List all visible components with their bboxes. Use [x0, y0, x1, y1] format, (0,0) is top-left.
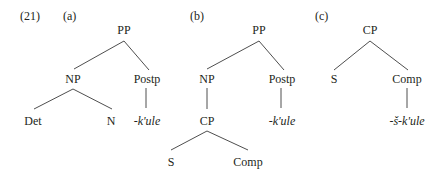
tree-edges — [0, 0, 448, 177]
node-s: S — [331, 72, 338, 86]
node-cp: CP — [363, 23, 378, 37]
node-np: NP — [199, 72, 214, 86]
node-n: N — [107, 114, 116, 128]
edge-np-n — [73, 89, 112, 109]
edge-pp-np — [207, 41, 259, 69]
morpheme-kule: -k'ule — [269, 114, 296, 128]
morpheme-s-kule: -š-k'ule — [389, 114, 424, 128]
tree-a-label: (a) — [63, 9, 76, 23]
node-pp: PP — [252, 23, 265, 37]
tree-c-label: (c) — [315, 9, 328, 23]
edge-cp-s — [171, 131, 207, 150]
node-comp: Comp — [392, 72, 421, 86]
edge-pp-postp — [124, 41, 149, 70]
node-np: NP — [65, 72, 80, 86]
node-postp: Postp — [269, 72, 296, 86]
node-cp: CP — [200, 114, 215, 128]
edge-np-det — [34, 89, 73, 109]
edge-cp-comp — [207, 131, 248, 150]
edge-cp-s — [334, 41, 370, 70]
edge-pp-postp — [259, 41, 284, 70]
example-number: (21) — [20, 9, 40, 23]
node-det: Det — [24, 114, 41, 128]
node-postp: Postp — [134, 72, 161, 86]
node-pp: PP — [117, 23, 130, 37]
edge-cp-comp — [370, 41, 408, 70]
tree-b-edges — [171, 41, 284, 150]
node-s: S — [168, 155, 175, 169]
edge-pp-np — [74, 41, 124, 69]
morpheme-kule: -k'ule — [134, 114, 161, 128]
node-comp: Comp — [233, 155, 262, 169]
tree-b-label: (b) — [190, 9, 204, 23]
tree-a-edges — [34, 41, 149, 109]
